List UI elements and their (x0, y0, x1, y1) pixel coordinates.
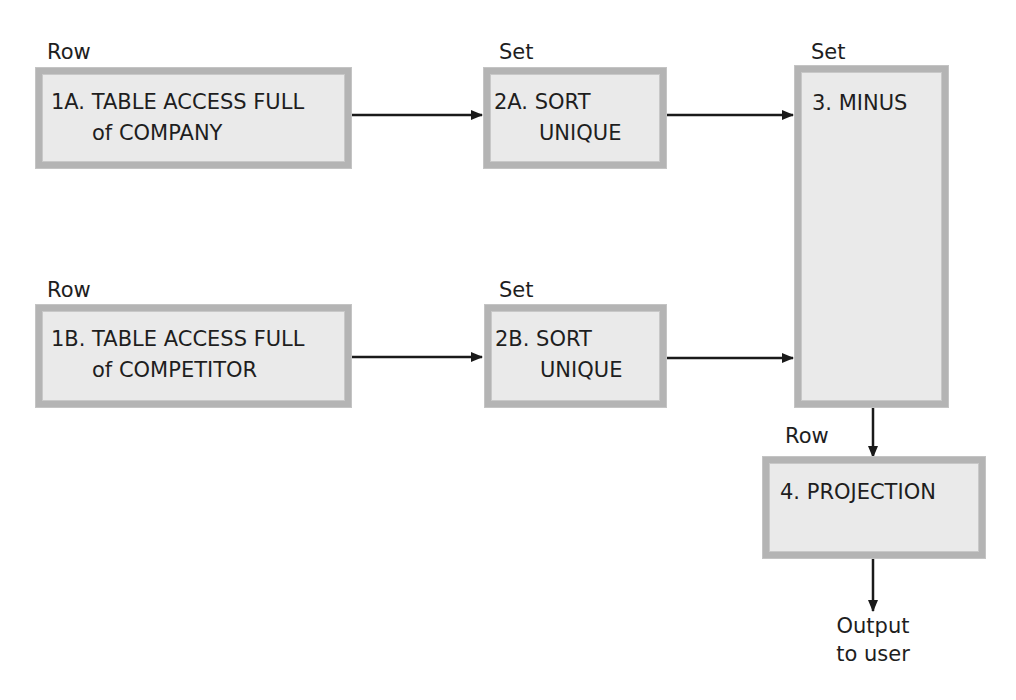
node-1a-type-label: Row (47, 40, 91, 64)
node-1b-line2: of COMPETITOR (92, 355, 257, 386)
node-2b-line1: 2B. SORT (495, 324, 592, 355)
node-2b-sort-unique: 2B. SORT UNIQUE (485, 305, 666, 407)
node-2b-type-label: Set (499, 278, 533, 302)
node-1b-type-label: Row (47, 278, 91, 302)
node-2b-line2: UNIQUE (540, 355, 622, 386)
output-line1: Output (813, 612, 933, 640)
node-2a-type-label: Set (499, 40, 533, 64)
node-4-projection: 4. PROJECTION (763, 457, 985, 558)
node-1b-table-access-competitor: 1B. TABLE ACCESS FULL of COMPETITOR (36, 305, 351, 407)
node-2a-line1: 2A. SORT (494, 87, 590, 118)
output-to-user: Output to user (813, 612, 933, 668)
node-4-type-label: Row (785, 424, 829, 448)
node-3-type-label: Set (811, 40, 845, 64)
node-1a-line2: of COMPANY (92, 118, 222, 149)
node-3-line1: 3. MINUS (812, 88, 907, 119)
node-2a-sort-unique: 2A. SORT UNIQUE (484, 68, 666, 168)
node-4-line1: 4. PROJECTION (780, 477, 936, 508)
node-1b-line1: 1B. TABLE ACCESS FULL (51, 324, 305, 355)
node-2a-line2: UNIQUE (539, 118, 621, 149)
output-line2: to user (813, 640, 933, 668)
node-3-minus: 3. MINUS (795, 66, 948, 407)
node-1a-line1: 1A. TABLE ACCESS FULL (51, 87, 304, 118)
node-1a-table-access-company: 1A. TABLE ACCESS FULL of COMPANY (36, 68, 351, 168)
